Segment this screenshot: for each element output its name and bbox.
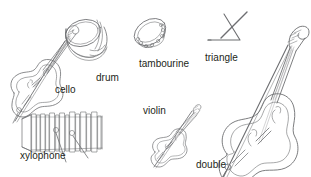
label-double-bass: double bass [196, 137, 226, 177]
label-violin: violin [143, 105, 166, 116]
triangle-illustration [208, 12, 247, 40]
double-bass-illustration [219, 26, 309, 177]
cello-illustration [11, 26, 79, 123]
tambourine-illustration [129, 13, 171, 51]
label-cello: cello [55, 84, 76, 95]
label-tambourine: tambourine [139, 58, 189, 69]
label-double-bass-line1: double [196, 159, 226, 170]
label-drum: drum [96, 72, 119, 83]
label-xylophone: xylophone [20, 150, 66, 161]
instrument-diagram: cello drum tambourine triangle violin do… [0, 0, 311, 177]
drum-illustration [62, 15, 107, 60]
label-triangle: triangle [205, 52, 238, 63]
